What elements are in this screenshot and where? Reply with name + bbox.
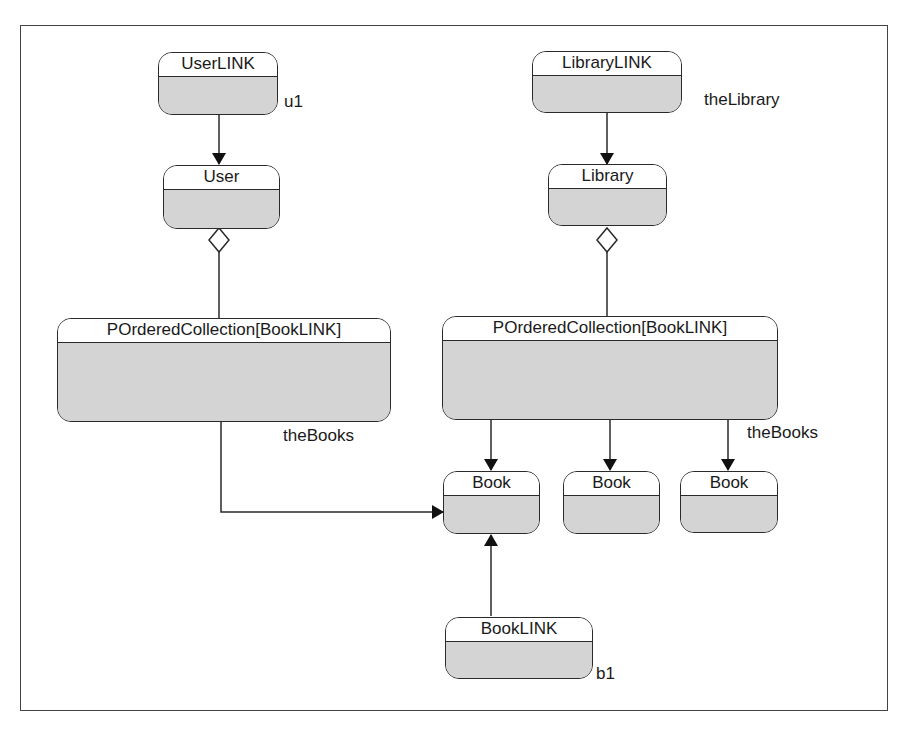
node-title: UserLINK [159,53,277,77]
node-title: Book [564,472,659,496]
node-user[interactable]: User [163,165,280,229]
node-body [58,343,390,421]
instance-label: u1 [284,92,303,112]
node-title: User [164,166,279,190]
node-body [159,77,277,114]
node-library[interactable]: Library [548,164,667,226]
node-body [681,496,777,532]
node-title: Book [444,472,539,496]
node-body [444,496,539,533]
instance-label: theBooks [283,426,354,446]
instance-label: theBooks [747,423,818,443]
node-title: POrderedCollection[BookLINK] [58,319,390,343]
node-user-collection[interactable]: POrderedCollection[BookLINK] [57,318,391,422]
instance-label: b1 [596,664,615,684]
node-title: Book [681,472,777,496]
node-book-2[interactable]: Book [563,471,660,534]
node-title: BookLINK [446,618,592,642]
node-title: Library [549,165,666,189]
node-body [443,341,777,419]
node-book-3[interactable]: Book [680,471,778,533]
node-body [533,76,681,112]
node-body [549,189,666,225]
node-body [164,190,279,228]
node-userlink[interactable]: UserLINK [158,52,278,115]
node-librarylink[interactable]: LibraryLINK [532,51,682,113]
node-body [446,642,592,678]
node-book-1[interactable]: Book [443,471,540,534]
node-title: POrderedCollection[BookLINK] [443,317,777,341]
node-library-collection[interactable]: POrderedCollection[BookLINK] [442,316,778,420]
aggregation-diamond-icon [209,228,229,252]
node-booklink[interactable]: BookLINK [445,617,593,679]
node-title: LibraryLINK [533,52,681,76]
instance-label: theLibrary [704,90,780,110]
node-body [564,496,659,533]
aggregation-diamond-icon [597,228,617,252]
